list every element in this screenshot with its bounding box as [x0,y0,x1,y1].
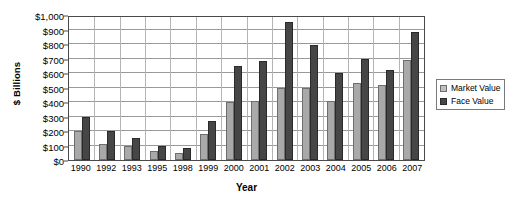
bar [386,70,394,160]
chart-legend: Market ValueFace Value [436,79,505,110]
bar [327,101,335,160]
bar [353,83,361,160]
x-axis-tick-labels: 1990199219931995199819992000200120022003… [68,163,425,173]
legend-label: Face Value [451,96,493,106]
x-tick-label: 2004 [323,163,349,173]
bar [82,117,90,161]
x-tick-label: 1993 [119,163,145,173]
bar [200,134,208,160]
bar [99,144,107,160]
legend-swatch-icon [440,98,447,105]
y-tick-label: $1,000 [8,11,64,22]
y-tick-label: $600 [8,69,64,80]
bar [74,131,82,160]
x-tick-label: 1999 [196,163,222,173]
x-tick-label: 2000 [221,163,247,173]
bar [234,66,242,160]
x-tick-label: 2002 [272,163,298,173]
bar [335,73,343,160]
x-tick-label: 1990 [68,163,94,173]
bar [361,59,369,161]
bar [158,146,166,161]
bar-group [94,17,119,160]
legend-item: Market Value [440,83,500,93]
bar-group [272,17,297,160]
bar-group [196,17,221,160]
bar [132,138,140,160]
bar-chart: $ Billions $0$100$200$300$400$500$600$70… [0,0,520,212]
y-tick-label: $700 [8,54,64,65]
plot-area [68,16,425,161]
bar [208,121,216,160]
bar-group [348,17,373,160]
y-tick-label: $200 [8,127,64,138]
bar [285,22,293,160]
bar [226,102,234,160]
bar [183,148,191,160]
legend-label: Market Value [451,83,500,93]
legend-swatch-icon [440,85,447,92]
x-tick-label: 1995 [145,163,171,173]
legend-item: Face Value [440,96,500,106]
bar [277,88,285,161]
y-tick-label: $400 [8,98,64,109]
y-tick-label: $100 [8,141,64,152]
bar [150,151,158,160]
bar [251,101,259,160]
y-tick-label: $900 [8,25,64,36]
bar [175,153,183,160]
bar [378,85,386,160]
bar-group [247,17,272,160]
bar-group [399,17,424,160]
y-tick-label: $800 [8,40,64,51]
x-tick-label: 1992 [94,163,120,173]
y-tick-label: $300 [8,112,64,123]
bar [124,146,132,161]
bar [310,45,318,160]
bar [403,60,411,160]
y-axis-tick-labels: $0$100$200$300$400$500$600$700$800$900$1… [4,16,64,161]
y-tick-label: $500 [8,83,64,94]
x-tick-label: 1998 [170,163,196,173]
bar-group [69,17,94,160]
bars-layer [69,17,424,160]
y-tick-label: $0 [8,156,64,167]
x-tick-label: 2005 [349,163,375,173]
x-tick-label: 2003 [298,163,324,173]
bar [302,88,310,161]
x-tick-label: 2007 [400,163,426,173]
bar-group [120,17,145,160]
bar-group [373,17,398,160]
bar-group [145,17,170,160]
bar-group [323,17,348,160]
x-tick-label: 2006 [374,163,400,173]
bar [259,61,267,160]
bar-group [221,17,246,160]
bar-group [170,17,195,160]
bar [411,32,419,160]
bar [107,131,115,160]
x-axis-title: Year [68,182,425,193]
x-tick-label: 2001 [247,163,273,173]
bar-group [297,17,322,160]
